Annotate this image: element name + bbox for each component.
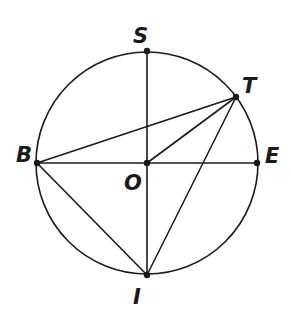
point-t <box>233 94 239 100</box>
label-b: B <box>16 143 32 167</box>
segment-bt <box>37 97 236 163</box>
segment-ti <box>147 97 236 275</box>
label-i: I <box>133 285 141 309</box>
point-b <box>34 160 40 166</box>
point-s <box>144 48 150 54</box>
circle-geometry-diagram: STBEOI <box>0 0 291 313</box>
label-s: S <box>133 24 148 48</box>
point-o <box>144 160 150 166</box>
point-i <box>144 272 150 278</box>
segment-ot <box>147 97 236 163</box>
label-t: T <box>242 74 258 98</box>
label-o: O <box>124 171 142 195</box>
point-labels: STBEOI <box>16 24 280 309</box>
label-e: E <box>265 144 280 168</box>
point-e <box>254 160 260 166</box>
